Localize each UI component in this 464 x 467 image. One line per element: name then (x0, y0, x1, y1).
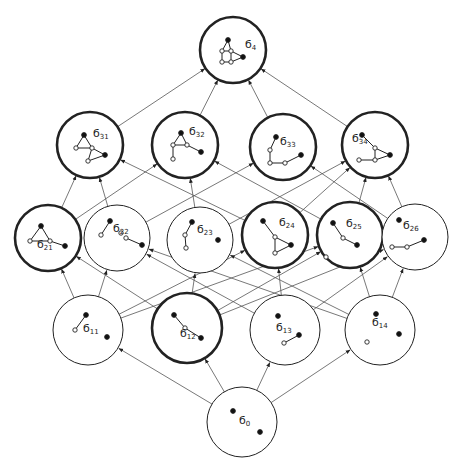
hollow-vertex (390, 245, 394, 249)
edge-s0-to-s12 (205, 359, 225, 393)
node-s22: б22 (84, 205, 150, 271)
edge-s32-to-s4 (199, 80, 218, 117)
hollow-vertex (28, 239, 32, 243)
hollow-vertex (273, 235, 277, 239)
filled-vertex (190, 220, 195, 225)
hollow-vertex (324, 255, 328, 259)
filled-vertex (199, 336, 204, 341)
node-s11: б11 (53, 295, 123, 365)
node-s23: б23 (167, 207, 233, 273)
edge-s0-to-s13 (256, 363, 270, 392)
filled-vertex (397, 218, 402, 223)
edge-s14-to-s26 (392, 269, 403, 299)
filled-vertex (231, 409, 236, 414)
hollow-vertex (90, 146, 94, 150)
hollow-vertex (171, 143, 175, 147)
filled-vertex (422, 238, 427, 243)
hollow-vertex (48, 239, 52, 243)
filled-vertex (105, 335, 110, 340)
node-s12: б12 (152, 293, 222, 363)
hollow-vertex (99, 233, 103, 237)
node-circle (167, 207, 233, 273)
filled-vertex (355, 243, 360, 248)
hollow-vertex (405, 245, 409, 249)
filled-vertex (226, 38, 231, 43)
hollow-vertex (357, 158, 361, 162)
filled-vertex (199, 150, 204, 155)
filled-vertex (63, 244, 68, 249)
edge-s14-to-s25 (360, 267, 370, 298)
hollow-vertex (273, 251, 277, 255)
hollow-vertex (73, 328, 77, 332)
edge-s21-to-s31 (61, 176, 76, 210)
edge-s11-to-s21 (62, 269, 75, 300)
filled-vertex (103, 153, 108, 158)
hollow-vertex (268, 161, 272, 165)
filled-vertex (258, 430, 263, 435)
filled-vertex (331, 221, 336, 226)
edge-s22-to-s31 (99, 178, 108, 209)
node-layer: б4б31б32б33б34б21б22б23б24б25б26б11б12б1… (15, 17, 448, 457)
node-s31: б31 (57, 112, 123, 178)
filled-vertex (297, 333, 302, 338)
filled-vertex (39, 224, 44, 229)
node-s4: б4 (200, 17, 266, 83)
edge-s26-to-s34 (389, 176, 403, 208)
hollow-vertex (74, 146, 78, 150)
hollow-vertex (373, 146, 377, 150)
hollow-vertex (283, 161, 287, 165)
hollow-vertex (365, 340, 369, 344)
node-s13: б13 (250, 295, 320, 365)
node-s26: б26 (382, 204, 448, 270)
filled-vertex (82, 133, 87, 138)
hollow-vertex (282, 341, 286, 345)
node-s0: б0 (207, 387, 277, 457)
hollow-vertex (183, 233, 187, 237)
hollow-vertex (220, 49, 224, 53)
filled-vertex (172, 313, 177, 318)
edge-s11-to-s22 (98, 270, 107, 298)
hasse-diagram: б4б31б32б33б34б21б22б23б24б25б26б11б12б1… (0, 0, 464, 467)
hollow-vertex (184, 246, 188, 250)
hollow-vertex (229, 49, 233, 53)
filled-vertex (140, 243, 145, 248)
node-s25: б25 (317, 202, 383, 268)
hollow-vertex (268, 148, 272, 152)
node-s14: б14 (345, 295, 415, 365)
filled-vertex (276, 314, 281, 319)
filled-vertex (299, 153, 304, 158)
hollow-vertex (341, 236, 345, 240)
node-s24: б24 (242, 202, 308, 268)
filled-vertex (261, 219, 266, 224)
hollow-vertex (124, 236, 128, 240)
hollow-vertex (171, 157, 175, 161)
filled-vertex (84, 313, 89, 318)
node-circle (345, 295, 415, 365)
filled-vertex (179, 131, 184, 136)
node-circle (342, 112, 408, 178)
edge-s33-to-s4 (249, 80, 269, 119)
filled-vertex (274, 135, 279, 140)
filled-vertex (397, 332, 402, 337)
filled-vertex (216, 238, 221, 243)
filled-vertex (289, 243, 294, 248)
filled-vertex (241, 55, 246, 60)
hollow-vertex (185, 143, 189, 147)
hollow-vertex (86, 159, 90, 163)
hollow-vertex (229, 60, 233, 64)
node-s33: б33 (250, 114, 316, 180)
node-circle (84, 205, 150, 271)
filled-vertex (108, 219, 113, 224)
hollow-vertex (373, 158, 377, 162)
node-s21: б21 (15, 205, 81, 271)
node-s34: б34 (342, 112, 408, 178)
edge-s13-to-s24 (279, 269, 282, 297)
node-s32: б32 (152, 112, 218, 178)
filled-vertex (360, 133, 365, 138)
node-circle (382, 204, 448, 270)
filled-vertex (388, 153, 393, 158)
hollow-vertex (220, 60, 224, 64)
